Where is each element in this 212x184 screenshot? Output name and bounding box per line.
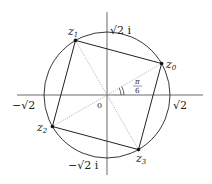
label-z0: z0 — [165, 58, 177, 72]
label-pos-imag: √2 i — [110, 24, 132, 37]
label-neg-real: −√2 — [12, 99, 35, 112]
point-z0 — [160, 62, 164, 66]
label-origin: 0 — [97, 101, 102, 110]
angle-arc-inner — [119, 88, 121, 95]
label-z2: z2 — [36, 121, 48, 135]
angle-numerator: π — [134, 78, 140, 86]
label-z1: z1 — [67, 25, 78, 39]
label-pos-real: √2 — [173, 99, 187, 112]
angle-denominator: 6 — [135, 87, 140, 95]
point-z3 — [137, 148, 141, 152]
complex-plane-figure: z0 z1 z2 z3 √2 i −√2 i √2 −√2 0 π 6 — [0, 0, 212, 184]
diagram-canvas: z0 z1 z2 z3 √2 i −√2 i √2 −√2 0 π 6 — [0, 0, 212, 184]
point-z2 — [51, 125, 55, 129]
point-z1 — [74, 39, 78, 43]
angle-arc-outer — [122, 87, 124, 96]
label-neg-imag: −√2 i — [68, 159, 99, 172]
label-z3: z3 — [135, 152, 147, 166]
